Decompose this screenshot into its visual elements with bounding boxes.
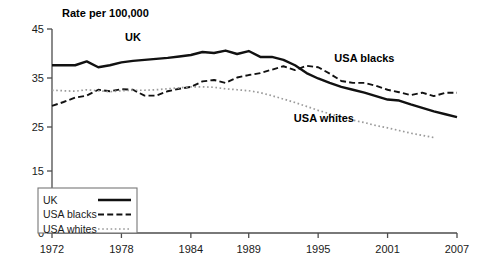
- chart-title: Rate per 100,000: [62, 7, 149, 19]
- y-tick-label: 15: [32, 165, 44, 177]
- line-chart: 0152535451972197819841989199520012007Rat…: [0, 0, 484, 276]
- y-tick-label: 25: [32, 121, 44, 133]
- y-tick-label: 35: [32, 72, 44, 84]
- series-line-uk: [52, 51, 457, 118]
- y-tick-label: 45: [32, 23, 44, 35]
- annotation-usa-blacks: USA blacks: [334, 52, 394, 64]
- x-tick-label: 2001: [375, 243, 399, 255]
- annotation-uk: UK: [125, 31, 141, 43]
- legend-label-2: USA whites: [43, 223, 97, 235]
- x-tick-label: 1978: [109, 243, 133, 255]
- x-tick-label: 2007: [445, 243, 469, 255]
- x-tick-label: 1989: [236, 243, 260, 255]
- series-line-usa-whites: [52, 87, 434, 138]
- chart-figure: 0152535451972197819841989199520012007Rat…: [0, 0, 484, 276]
- legend-label-1: USA blacks: [43, 208, 97, 220]
- legend-label-0: UK: [43, 194, 58, 206]
- x-tick-label: 1984: [179, 243, 203, 255]
- annotation-usa-whites: USA whites: [294, 112, 354, 124]
- x-tick-label: 1972: [40, 243, 64, 255]
- x-tick-label: 1995: [306, 243, 330, 255]
